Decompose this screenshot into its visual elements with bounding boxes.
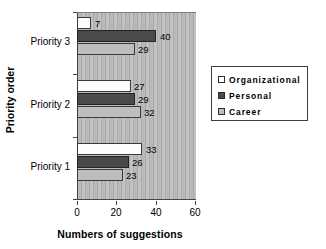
x-axis-title: Numbers of suggestions [0,228,240,240]
x-axis-tick-label-0: 0 [63,207,91,219]
bar-priority2-personal [77,93,135,105]
bar-priority3-career [77,43,135,55]
y-axis-category-priority-3: Priority 3 [10,36,70,48]
bar-priority1-career [77,169,123,181]
bar-label-priority1-career: 23 [126,170,137,181]
x-axis-tick [116,201,117,205]
legend-swatch-icon-personal [218,92,225,99]
x-axis-tick [156,201,157,205]
y-axis-tick [73,74,77,75]
legend-item-organizational: Organizational [218,72,307,87]
legend-item-personal: Personal [218,88,307,103]
x-axis-tick-label-60: 60 [181,207,209,219]
bar-label-priority3-organizational: 7 [95,18,100,29]
x-axis-tick-label-40: 40 [142,207,170,219]
legend-swatch-icon-career [218,108,225,115]
y-axis-title: Priority order [4,57,16,143]
bar-label-priority1-organizational: 33 [146,144,157,155]
bar-priority3-personal [77,30,156,42]
bar-priority1-personal [77,156,129,168]
legend-item-career: Career [218,104,307,119]
bar-chart: 7 40 29 27 29 32 33 26 23 Priority 3 Pri… [0,0,326,249]
bar-label-priority1-personal: 26 [132,157,143,168]
y-axis-category-priority-1: Priority 1 [10,161,70,173]
y-axis-category-priority-2: Priority 2 [10,99,70,111]
legend-label-personal: Personal [229,91,272,101]
x-axis-tick-label-20: 20 [102,207,130,219]
y-axis-tick [73,137,77,138]
legend-swatch-icon-organizational [218,76,225,83]
bar-label-priority3-personal: 40 [160,31,171,42]
bar-priority2-organizational [77,80,131,92]
bar-priority2-career [77,106,141,118]
legend-label-career: Career [229,107,261,117]
bar-priority1-organizational [77,143,142,155]
bar-label-priority3-career: 29 [138,44,149,55]
bar-label-priority2-career: 32 [144,107,155,118]
bar-label-priority2-personal: 29 [138,94,149,105]
x-axis-tick [195,201,196,205]
legend-label-organizational: Organizational [229,75,301,85]
x-axis-tick [77,201,78,205]
y-axis-tick [73,199,77,200]
legend: Organizational Personal Career [211,66,308,121]
bar-priority3-organizational [77,17,91,29]
plot-top-border [77,12,196,13]
bar-label-priority2-organizational: 27 [134,81,145,92]
y-axis-tick [73,12,77,13]
